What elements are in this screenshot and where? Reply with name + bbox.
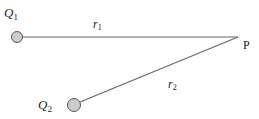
r2-label: r2 [168, 77, 177, 92]
q2-label: Q2 [38, 97, 52, 114]
r1-label: r1 [93, 17, 102, 32]
charge-q2 [68, 99, 81, 112]
charges-diagram: Q1 Q2 r1 r2 P [0, 0, 259, 119]
q1-label: Q1 [4, 5, 18, 22]
charge-q1 [12, 32, 23, 43]
point-p-label: P [243, 38, 250, 52]
r2-line [80, 37, 238, 102]
